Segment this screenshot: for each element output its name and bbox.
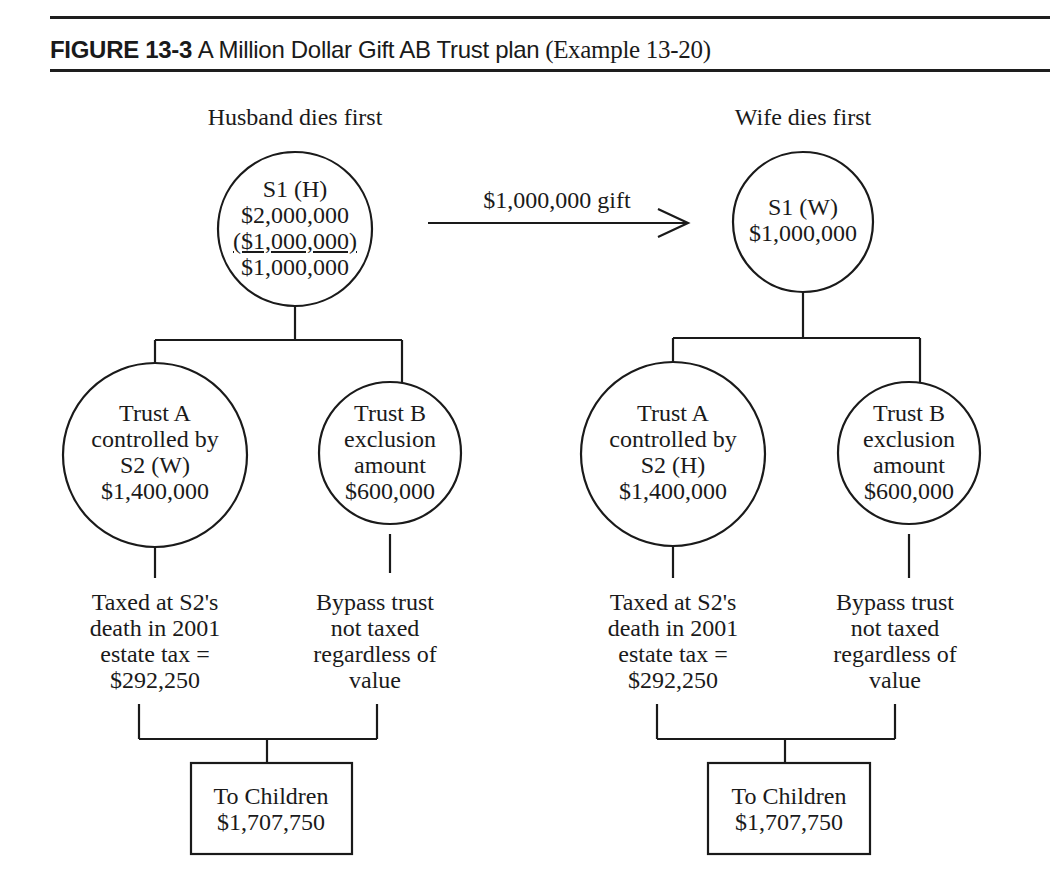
note-line: Bypass trust [833, 589, 956, 615]
children-husband: To Children $1,707,750 [214, 783, 329, 835]
trust-a-line: $1,400,000 [91, 478, 218, 504]
root-line: $1,000,000 [233, 254, 357, 280]
note-line: regardless of [833, 641, 956, 667]
trust-a-husband: Trust A controlled by S2 (W) $1,400,000 [91, 400, 218, 504]
gift-arrow-label: $1,000,000 gift [483, 187, 630, 213]
root-line: $2,000,000 [233, 202, 357, 228]
root-line: S1 (H) [233, 176, 357, 202]
trust-b-note-husband: Bypass trust not taxed regardless of val… [313, 589, 436, 693]
note-line: death in 2001 [608, 615, 739, 641]
note-line: value [833, 667, 956, 693]
root-node-wife: S1 (W) $1,000,000 [749, 194, 857, 246]
trust-b-line: Trust B [344, 400, 436, 426]
root-line: S1 (W) [749, 194, 857, 220]
trust-a-line: S2 (W) [91, 452, 218, 478]
children-line: To Children [732, 783, 847, 809]
trust-b-line: Trust B [863, 400, 955, 426]
children-line: $1,707,750 [214, 809, 329, 835]
trust-b-line: exclusion [863, 426, 955, 452]
trust-b-line: amount [863, 452, 955, 478]
note-line: death in 2001 [90, 615, 221, 641]
trust-a-line: Trust A [91, 400, 218, 426]
root-line: $1,000,000 [749, 220, 857, 246]
trust-a-line: Trust A [609, 400, 736, 426]
trust-b-husband: Trust B exclusion amount $600,000 [344, 400, 436, 504]
trust-b-line: $600,000 [344, 478, 436, 504]
note-line: Bypass trust [313, 589, 436, 615]
trust-a-line: controlled by [91, 426, 218, 452]
children-line: To Children [214, 783, 329, 809]
trust-b-line: $600,000 [863, 478, 955, 504]
note-line: Taxed at S2's [90, 589, 221, 615]
root-line: ($1,000,000) [233, 228, 357, 254]
children-wife: To Children $1,707,750 [732, 783, 847, 835]
trust-b-wife: Trust B exclusion amount $600,000 [863, 400, 955, 504]
heading-wife-dies-first: Wife dies first [735, 104, 871, 130]
note-line: estate tax = [90, 641, 221, 667]
heading-husband-dies-first: Husband dies first [208, 104, 383, 130]
children-line: $1,707,750 [732, 809, 847, 835]
note-line: estate tax = [608, 641, 739, 667]
note-line: value [313, 667, 436, 693]
trust-a-line: S2 (H) [609, 452, 736, 478]
note-line: $292,250 [608, 667, 739, 693]
trust-b-line: exclusion [344, 426, 436, 452]
trust-a-wife: Trust A controlled by S2 (H) $1,400,000 [609, 400, 736, 504]
trust-b-line: amount [344, 452, 436, 478]
root-node-husband: S1 (H) $2,000,000 ($1,000,000) $1,000,00… [233, 176, 357, 280]
note-line: Taxed at S2's [608, 589, 739, 615]
note-line: $292,250 [90, 667, 221, 693]
trust-b-note-wife: Bypass trust not taxed regardless of val… [833, 589, 956, 693]
note-line: regardless of [313, 641, 436, 667]
trust-a-line: controlled by [609, 426, 736, 452]
note-line: not taxed [833, 615, 956, 641]
trust-a-note-husband: Taxed at S2's death in 2001 estate tax =… [90, 589, 221, 693]
trust-a-line: $1,400,000 [609, 478, 736, 504]
note-line: not taxed [313, 615, 436, 641]
trust-a-note-wife: Taxed at S2's death in 2001 estate tax =… [608, 589, 739, 693]
